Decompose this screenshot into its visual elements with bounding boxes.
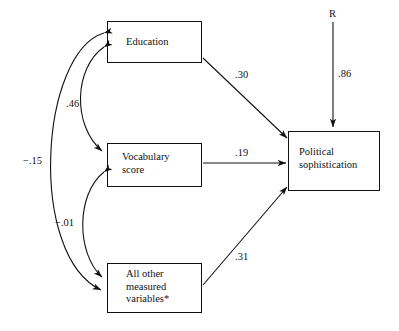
edge-label-vocabulary-all-other-correlation: −.01 [55,217,74,229]
residual-label-R: R [329,8,336,19]
curve-education-all-other [51,33,104,290]
edge-label-education-vocabulary-correlation: .46 [66,98,79,110]
edge-label-residual-coefficient: .86 [338,68,351,80]
edge-label-education-to-political: .30 [235,69,248,81]
curve-vocabulary-all-other [83,172,104,277]
edge-label-education-all-other-correlation: −.15 [23,155,42,167]
path-diagram: Education Vocabulary score All other mea… [0,0,399,331]
edge-label-all-other-to-political: .31 [235,251,248,263]
arrow-all-other-to-political [203,187,287,285]
edges-layer [0,0,399,331]
curve-education-vocabulary [80,47,104,151]
edge-label-vocabulary-to-political: .19 [235,147,248,159]
